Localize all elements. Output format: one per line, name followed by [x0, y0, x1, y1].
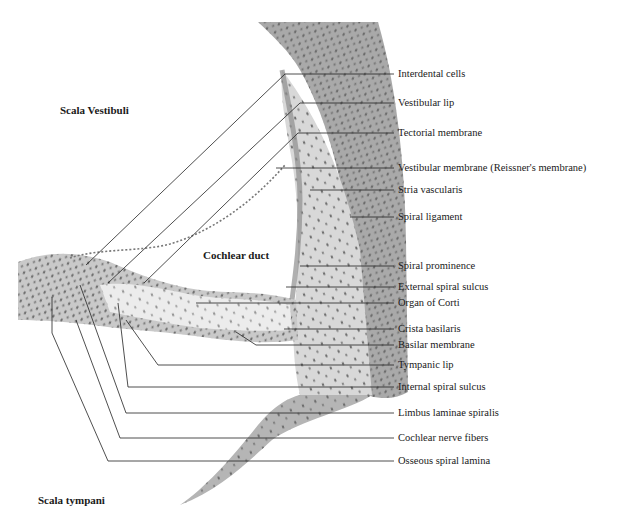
callout-vestibular-membrane: Vestibular membrane (Reissner's membrane…	[398, 162, 586, 174]
callout-stria-vascularis: Stria vascularis	[398, 184, 462, 196]
callout-spiral-prominence: Spiral prominence	[398, 260, 475, 272]
callout-external-spiral-sulcus: External spiral sulcus	[398, 281, 488, 293]
callout-cochlear-nerve-fibers: Cochlear nerve fibers	[398, 432, 488, 444]
callout-organ-of-corti: Organ of Corti	[398, 297, 460, 309]
callout-spiral-ligament: Spiral ligament	[398, 211, 462, 223]
callout-tympanic-lip: Tympanic lip	[398, 359, 454, 371]
callout-internal-spiral-sulcus: Internal spiral sulcus	[398, 381, 485, 393]
callout-tectorial-membrane: Tectorial membrane	[398, 127, 482, 139]
callout-osseous-spiral-lamina: Osseous spiral lamina	[398, 455, 490, 467]
reissner-membrane	[70, 165, 285, 258]
scala-tympani-label: Scala tympani	[38, 494, 105, 506]
callout-basilar-membrane: Basilar membrane	[398, 339, 475, 351]
callout-crista-basilaris: Crista basilaris	[398, 323, 461, 335]
callout-vestibular-lip: Vestibular lip	[398, 97, 454, 109]
cochlea-histology-figure: Scala Vestibuli Cochlear duct Scala tymp…	[0, 0, 635, 530]
scala-vestibuli-label: Scala Vestibuli	[60, 104, 129, 116]
histology-illustration	[0, 0, 635, 530]
callout-limbus-laminae-spiralis: Limbus laminae spiralis	[398, 407, 499, 419]
cochlear-duct-label: Cochlear duct	[203, 249, 269, 261]
callout-interdental-cells: Interdental cells	[398, 68, 465, 80]
